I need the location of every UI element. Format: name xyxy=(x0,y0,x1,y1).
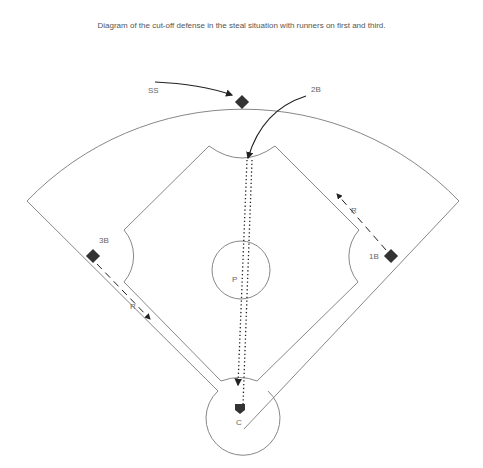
label-runner-first: R xyxy=(351,206,357,215)
second-base xyxy=(235,95,249,109)
pitchers-mound xyxy=(212,241,270,299)
throw-path-cutoff xyxy=(238,160,247,385)
left-foul-line xyxy=(27,201,218,391)
label-catcher: C xyxy=(236,418,242,427)
third-base xyxy=(86,249,100,263)
label-second-base: 2B xyxy=(311,85,321,94)
baseball-field-diagram: SS 2B 3B 1B P C R R xyxy=(0,0,483,468)
label-first-base: 1B xyxy=(369,252,379,261)
ss-arrow xyxy=(155,82,232,95)
home-plate xyxy=(235,404,245,414)
label-third-base: 3B xyxy=(99,236,109,245)
runner-third-path xyxy=(97,264,150,319)
outfield-boundary xyxy=(27,109,459,429)
label-pitcher: P xyxy=(232,275,237,284)
label-ss: SS xyxy=(148,86,159,95)
home-plate-circle xyxy=(206,391,280,455)
throw-path-catcher xyxy=(243,160,252,405)
runner-first-path xyxy=(337,194,386,250)
infield-edge xyxy=(124,146,359,381)
first-base xyxy=(384,249,398,263)
label-runner-third: R xyxy=(130,302,136,311)
